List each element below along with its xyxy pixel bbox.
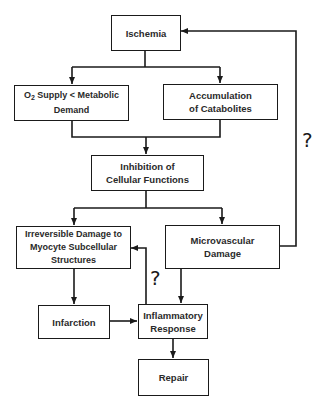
node-label: Cellular Functions xyxy=(106,173,189,186)
node-microvascular: Microvascular Damage xyxy=(165,225,280,269)
node-o2-supply: O2 Supply < Metabolic Demand xyxy=(14,85,129,121)
node-label: Ischemia xyxy=(126,27,167,40)
node-label: Inhibition of xyxy=(106,160,189,173)
node-label: Inflammatory xyxy=(143,309,203,322)
edge-inflammatory-to-irreversible xyxy=(131,248,146,304)
node-label: Structures xyxy=(25,254,122,267)
node-label: of Catabolites xyxy=(189,102,252,115)
connector-lines xyxy=(0,0,327,406)
node-label: Myocyte Subcellular xyxy=(25,241,122,254)
node-label: Accumulation xyxy=(189,89,252,102)
node-repair: Repair xyxy=(138,359,209,396)
node-label: Microvascular xyxy=(191,234,255,247)
flowchart: Ischemia O2 Supply < Metabolic Demand Ac… xyxy=(0,0,327,406)
node-ischemia: Ischemia xyxy=(111,15,181,51)
node-catabolites: Accumulation of Catabolites xyxy=(163,84,278,120)
node-label: Demand xyxy=(24,104,119,117)
question-mark-feedback-right: ? xyxy=(302,130,313,150)
question-mark-feedback-left: ? xyxy=(150,268,161,288)
node-label: Response xyxy=(143,322,203,335)
node-label-prefix: O2 Supply < Metabolic xyxy=(24,90,119,100)
node-label: Damage xyxy=(191,247,255,260)
edge-microvascular-to-ischemia xyxy=(181,31,296,246)
node-infarction: Infarction xyxy=(38,305,110,339)
node-label: Repair xyxy=(159,371,189,384)
node-irreversible: Irreversible Damage to Myocyte Subcellul… xyxy=(16,226,131,269)
edge-merge-bar xyxy=(72,119,220,137)
node-label: Irreversible Damage to xyxy=(25,228,122,241)
node-inhibition: Inhibition of Cellular Functions xyxy=(91,155,204,191)
node-inflammatory: Inflammatory Response xyxy=(138,304,208,339)
node-label: Infarction xyxy=(52,316,95,329)
